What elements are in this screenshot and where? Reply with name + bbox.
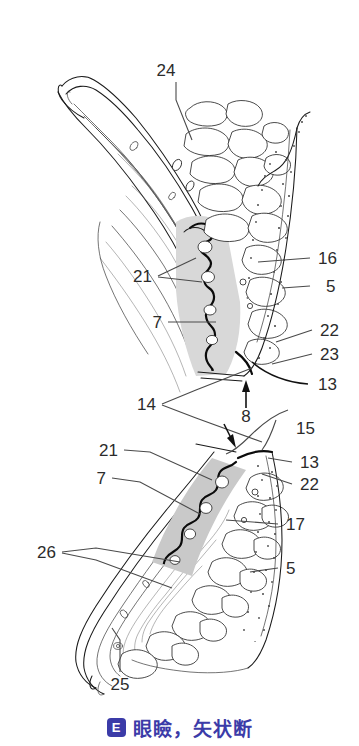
label-21-upper: 21	[133, 267, 152, 286]
label-8: 8	[241, 407, 250, 426]
label-13-lower: 13	[300, 453, 319, 472]
label-24: 24	[157, 61, 176, 80]
label-group: 24 21 16 5 7 22 23 13 14 8 15 21 13 22 7…	[37, 61, 339, 694]
caption-title-text: 眼瞼，矢状断	[133, 714, 253, 741]
label-5-upper: 5	[326, 277, 335, 296]
label-17: 17	[286, 515, 305, 534]
eyelid-sagittal-diagram: 24 21 16 5 7 22 23 13 14 8 15 21 13 22 7…	[0, 0, 359, 746]
label-22-upper: 22	[320, 321, 339, 340]
lower-lid-margin	[196, 444, 272, 458]
label-26: 26	[37, 543, 56, 562]
label-22-lower: 22	[300, 475, 319, 494]
label-21-lower: 21	[99, 441, 118, 460]
arrow-down-icon	[227, 434, 236, 448]
label-14: 14	[137, 395, 156, 414]
label-13-upper: 13	[318, 375, 337, 394]
eyelash-margin-tip	[58, 85, 176, 201]
figure-caption: E 眼瞼，矢状断	[0, 708, 359, 746]
label-16: 16	[318, 249, 337, 268]
label-7-upper: 7	[153, 313, 162, 332]
label-7-lower: 7	[97, 469, 106, 488]
anatomy-figure: 24 21 16 5 7 22 23 13 14 8 15 21 13 22 7…	[0, 0, 359, 746]
label-15: 15	[296, 419, 315, 438]
label-25: 25	[111, 675, 130, 694]
label-23: 23	[320, 345, 339, 364]
label-5-lower: 5	[286, 559, 295, 578]
arrow-up-icon	[242, 380, 250, 392]
caption-badge-letter: E	[107, 718, 126, 737]
